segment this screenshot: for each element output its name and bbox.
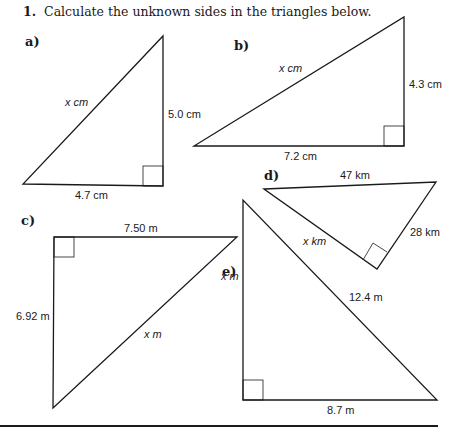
hypotenuse-label-c: x m	[144, 328, 162, 340]
right-angle-marker-b	[384, 126, 404, 146]
hypotenuse-label-a: x cm	[65, 96, 88, 108]
triangle-e	[243, 200, 437, 400]
side-label-b-vertical: 4.3 cm	[409, 78, 442, 90]
side-label-c-vertical: 6.92 m	[16, 310, 50, 322]
triangle-a	[23, 36, 163, 186]
side-label-e-horizontal: 8.7 m	[327, 404, 355, 416]
right-angle-marker-a	[143, 166, 163, 186]
side-label-b-horizontal: 7.2 cm	[284, 150, 317, 162]
hypotenuse-label-b: x cm	[279, 62, 302, 74]
hypotenuse-label-e: 12.4 m	[349, 291, 383, 303]
side-label-c-top: 7.50 m	[124, 222, 158, 234]
section-divider	[0, 425, 438, 427]
triangles-figure	[0, 0, 457, 441]
right-angle-marker-d	[363, 243, 387, 260]
hypotenuse-label-d: 47 km	[340, 169, 370, 181]
part-label-b: b)	[234, 38, 249, 53]
side-label-e-vertical: x m	[221, 270, 239, 282]
right-angle-marker-c	[54, 237, 74, 257]
part-label-d: d)	[264, 168, 279, 183]
side-label-d-left: x km	[303, 235, 326, 247]
right-angle-marker-e	[243, 380, 263, 400]
side-label-a-vertical: 5.0 cm	[168, 108, 201, 120]
side-label-a-horizontal: 4.7 cm	[75, 189, 108, 201]
triangle-c	[53, 237, 237, 408]
part-label-c: c)	[21, 213, 35, 228]
triangle-b	[194, 17, 404, 146]
part-label-a: a)	[25, 34, 40, 49]
side-label-d-right: 28 km	[410, 226, 440, 238]
